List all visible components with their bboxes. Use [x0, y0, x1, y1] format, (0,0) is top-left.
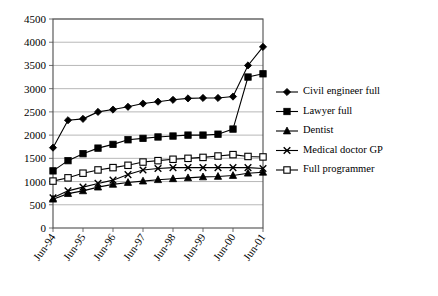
plot-frame — [53, 19, 263, 228]
data-point-marker — [124, 103, 131, 110]
data-point-marker — [140, 135, 146, 141]
plot-area-border — [53, 19, 263, 228]
y-tick-label: 1000 — [24, 176, 47, 188]
data-point-marker — [65, 175, 71, 181]
data-point-marker — [199, 94, 206, 101]
data-point-marker — [185, 132, 191, 138]
x-tick-label: Jun-97 — [121, 231, 148, 263]
data-point-marker — [230, 126, 236, 132]
data-point-marker — [284, 108, 290, 114]
data-point-marker — [125, 171, 132, 178]
x-tick-label: Jun-98 — [151, 231, 178, 263]
data-point-marker — [154, 98, 161, 105]
legend-label: Dentist — [303, 124, 333, 135]
x-tick-label: Jun-94 — [31, 231, 58, 263]
data-point-marker — [230, 151, 236, 157]
data-point-marker — [169, 96, 176, 103]
data-point-marker — [200, 132, 206, 138]
data-point-marker — [214, 94, 221, 101]
data-point-marker — [260, 154, 266, 160]
data-point-marker — [50, 168, 56, 174]
y-axis-labels: 050010001500200025003000350040004500 — [24, 13, 53, 234]
data-point-marker — [155, 134, 161, 140]
chart-container: 050010001500200025003000350040004500Jun-… — [0, 0, 438, 296]
y-tick-label: 4000 — [24, 36, 47, 48]
legend-label: Medical doctor GP — [303, 144, 383, 155]
data-point-marker — [170, 156, 176, 162]
data-point-marker — [185, 155, 191, 161]
legend-item-1[interactable]: Lawyer full — [276, 105, 352, 116]
data-point-marker — [139, 100, 146, 107]
data-point-marker — [65, 157, 71, 163]
y-tick-label: 2500 — [24, 106, 47, 118]
data-point-marker — [140, 159, 146, 165]
x-tick-label: Jun-99 — [181, 231, 208, 263]
x-axis: Jun-94Jun-95Jun-96Jun-97Jun-98Jun-99Jun-… — [31, 228, 268, 263]
legend-item-3[interactable]: Medical doctor GP — [276, 144, 383, 155]
y-tick-label: 1500 — [24, 152, 47, 164]
data-point-marker — [80, 150, 86, 156]
legend-label: Lawyer full — [303, 105, 352, 116]
data-point-marker — [284, 167, 290, 173]
legend-item-4[interactable]: Full programmer — [276, 163, 375, 174]
data-point-marker — [229, 93, 236, 100]
line-chart: 050010001500200025003000350040004500Jun-… — [0, 0, 438, 296]
data-point-marker — [80, 170, 86, 176]
data-point-marker — [125, 162, 131, 168]
y-tick-label: 4500 — [24, 13, 47, 25]
y-tick-label: 3500 — [24, 59, 47, 71]
legend-item-2[interactable]: Dentist — [276, 124, 333, 135]
data-point-marker — [64, 117, 71, 124]
data-point-marker — [283, 88, 290, 95]
legend: Civil engineer fullLawyer fullDentistMed… — [276, 85, 383, 174]
data-point-marker — [260, 71, 266, 77]
y-tick-label: 0 — [41, 222, 47, 234]
data-point-marker — [155, 157, 161, 163]
data-point-marker — [245, 153, 251, 159]
data-point-marker — [94, 108, 101, 115]
x-tick-label: Jun-01 — [241, 231, 268, 262]
data-point-marker — [170, 133, 176, 139]
series-group — [49, 43, 266, 202]
legend-label: Civil engineer full — [303, 85, 380, 96]
legend-label: Full programmer — [303, 163, 375, 174]
x-tick-label: Jun-00 — [211, 231, 238, 263]
x-tick-label: Jun-95 — [61, 231, 88, 263]
data-point-marker — [215, 131, 221, 137]
data-point-marker — [50, 178, 56, 184]
data-point-marker — [245, 74, 251, 80]
data-point-marker — [95, 167, 101, 173]
x-tick-label: Jun-96 — [91, 231, 118, 263]
y-tick-label: 3000 — [24, 83, 47, 95]
data-point-marker — [200, 154, 206, 160]
data-point-marker — [215, 153, 221, 159]
data-point-marker — [95, 145, 101, 151]
data-point-marker — [110, 164, 116, 170]
y-tick-label: 500 — [30, 199, 47, 211]
data-point-marker — [49, 144, 56, 151]
data-point-marker — [79, 115, 86, 122]
data-point-marker — [125, 137, 131, 143]
data-point-marker — [110, 141, 116, 147]
y-tick-label: 2000 — [24, 129, 47, 141]
legend-item-0[interactable]: Civil engineer full — [276, 85, 380, 96]
data-point-marker — [184, 95, 191, 102]
